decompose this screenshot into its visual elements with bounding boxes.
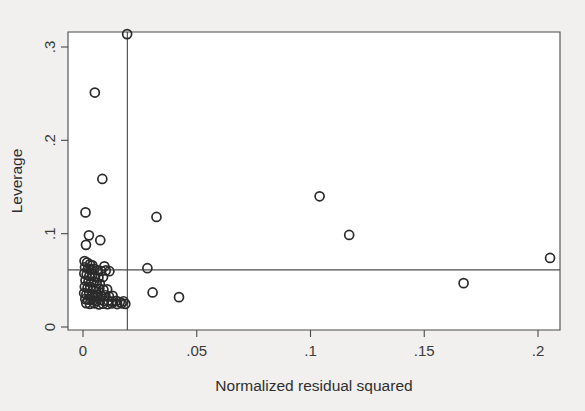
y-tick-label: .1 bbox=[41, 227, 58, 240]
y-tick-label: .3 bbox=[41, 41, 58, 54]
x-tick-label: 0 bbox=[79, 342, 87, 359]
leverage-residual-scatter-figure: 0.1.2.3 0.05.1.15.2 Normalized residual … bbox=[0, 0, 585, 411]
x-tick-label: .1 bbox=[304, 342, 317, 359]
y-tick-label: 0 bbox=[41, 323, 58, 331]
plot-area-background bbox=[68, 32, 560, 330]
x-tick-label: .15 bbox=[414, 342, 435, 359]
chart-canvas: 0.1.2.3 0.05.1.15.2 Normalized residual … bbox=[0, 0, 585, 411]
x-axis-title: Normalized residual squared bbox=[215, 377, 412, 394]
x-tick-label: .2 bbox=[532, 342, 545, 359]
y-tick-label: .2 bbox=[41, 134, 58, 147]
y-axis-title: Leverage bbox=[8, 149, 25, 214]
x-tick-label: .05 bbox=[186, 342, 207, 359]
